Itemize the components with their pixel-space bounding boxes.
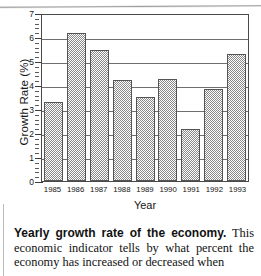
y-minor-tick xyxy=(35,144,39,145)
figure-caption: Yearly growth rate of the economy. This … xyxy=(14,226,254,270)
x-tick-label: 1988 xyxy=(112,185,131,194)
x-tick-label: 1985 xyxy=(43,185,62,194)
x-tick-label: 1992 xyxy=(205,185,224,194)
x-tick-label: 1989 xyxy=(136,185,155,194)
y-minor-tick xyxy=(35,57,39,58)
y-minor-tick xyxy=(35,105,39,106)
x-axis-label: Year xyxy=(41,199,249,211)
plot-area xyxy=(41,14,249,182)
y-minor-tick xyxy=(35,172,39,173)
x-tick-label: 1993 xyxy=(228,185,247,194)
y-minor-tick xyxy=(35,81,39,82)
bar xyxy=(227,54,246,181)
x-tick-label: 1987 xyxy=(89,185,108,194)
caption-lead: Yearly growth rate of the economy. xyxy=(14,226,226,240)
y-minor-tick xyxy=(35,52,39,53)
y-minor-tick xyxy=(35,76,39,77)
y-minor-tick xyxy=(35,19,39,20)
bar xyxy=(44,102,63,181)
x-tick-label: 1986 xyxy=(66,185,85,194)
y-tick-label: 7 xyxy=(29,10,34,19)
x-tick-label: 1990 xyxy=(159,185,178,194)
bar xyxy=(90,50,109,181)
y-minor-tick xyxy=(35,115,39,116)
y-minor-tick xyxy=(35,33,39,34)
y-minor-tick xyxy=(35,124,39,125)
y-tick-label: 0 xyxy=(29,178,34,187)
bar xyxy=(67,33,86,181)
y-tick-label: 2 xyxy=(29,130,34,139)
y-minor-tick xyxy=(35,67,39,68)
y-minor-tick xyxy=(35,148,39,149)
y-minor-tick xyxy=(35,28,39,29)
y-tick-label: 5 xyxy=(29,58,34,67)
y-minor-tick xyxy=(35,43,39,44)
bar xyxy=(158,79,177,181)
y-tick-label: 3 xyxy=(29,106,34,115)
y-axis-tick-labels: 76543210 xyxy=(20,14,34,182)
y-minor-tick xyxy=(35,177,39,178)
x-tick-label: 1991 xyxy=(182,185,201,194)
y-minor-tick xyxy=(35,139,39,140)
bar xyxy=(181,129,200,181)
y-minor-tick xyxy=(35,129,39,130)
y-minor-tick xyxy=(35,163,39,164)
bar-chart-figure: Growth Rate (%) 76543210 198519861987198… xyxy=(0,0,261,218)
y-minor-tick xyxy=(35,96,39,97)
bar xyxy=(204,89,223,181)
y-minor-tick xyxy=(35,72,39,73)
y-minor-tick xyxy=(35,168,39,169)
y-minor-tick xyxy=(35,120,39,121)
y-minor-tick xyxy=(35,153,39,154)
bar xyxy=(113,80,132,181)
x-axis-tick-labels: 198519861987198819891990199119921993 xyxy=(41,185,249,194)
y-major-tick xyxy=(35,182,43,183)
y-minor-tick xyxy=(35,91,39,92)
y-tick-label: 1 xyxy=(29,154,34,163)
y-minor-tick xyxy=(35,48,39,49)
bar xyxy=(136,97,155,181)
y-minor-tick xyxy=(35,24,39,25)
y-tick-label: 4 xyxy=(29,82,34,91)
y-tick-label: 6 xyxy=(29,34,34,43)
bar-series xyxy=(42,15,248,181)
y-minor-tick xyxy=(35,100,39,101)
